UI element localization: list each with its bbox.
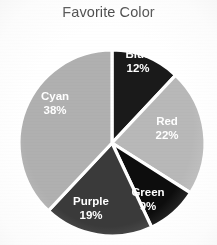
pie-slice-name-text: Red xyxy=(156,115,178,127)
pie-slice-value-text: 9% xyxy=(140,200,157,212)
pie-slice-value-text: 19% xyxy=(79,209,102,221)
pie-slice-name-text: Cyan xyxy=(41,90,69,102)
pie-slice-name-text: Blue xyxy=(126,48,151,60)
pie-slice-group xyxy=(19,50,205,236)
pie-slice-name-text: Green xyxy=(131,186,164,198)
pie-chart-figure: Favorite Color Blue12%Red22%Green9%Purpl… xyxy=(0,0,217,245)
pie-slice-value-text: 22% xyxy=(155,129,178,141)
pie-slice-value-text: 12% xyxy=(126,62,149,74)
pie-chart-plot-area: Blue12%Red22%Green9%Purple19%Cyan38% xyxy=(0,0,217,245)
pie-slice-value-text: 38% xyxy=(43,104,66,116)
pie-slice-name-text: Purple xyxy=(73,195,109,207)
pie-chart-svg: Blue12%Red22%Green9%Purple19%Cyan38% xyxy=(0,0,217,245)
